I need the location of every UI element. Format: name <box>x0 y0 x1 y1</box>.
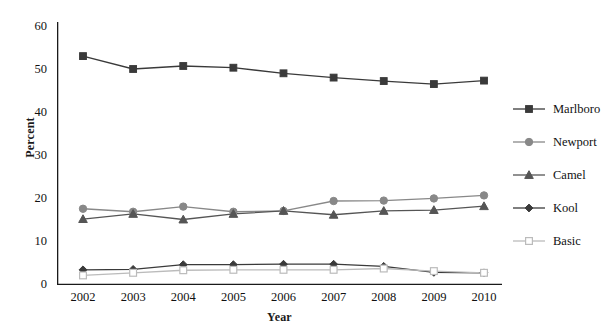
legend-label: Kool <box>546 201 578 215</box>
legend-item-marlboro[interactable]: Marlboro <box>512 92 606 125</box>
squarefilled-marker-icon <box>512 101 546 117</box>
trianglefilled-marker-icon <box>512 167 546 183</box>
y-tick-label: 10 <box>21 235 47 247</box>
y-tick-label: 60 <box>21 20 47 32</box>
y-tick-label: 30 <box>21 149 47 161</box>
x-tick-label: 2006 <box>262 291 306 304</box>
x-tick-label: 2008 <box>362 291 406 304</box>
legend-label: Marlboro <box>546 102 600 116</box>
legend-label: Basic <box>546 234 581 248</box>
legend-item-kool[interactable]: Kool <box>512 191 606 224</box>
diamondfilled-marker-icon <box>512 200 546 216</box>
x-tick-label: 2010 <box>462 291 506 304</box>
y-tick-label: 50 <box>21 63 47 75</box>
chart-figure: Rate Percent Year 0102030405060 20022003… <box>0 0 608 336</box>
legend-item-camel[interactable]: Camel <box>512 158 606 191</box>
x-tick-label: 2002 <box>61 291 105 304</box>
plot-area <box>57 22 502 285</box>
y-tick-label: 40 <box>21 106 47 118</box>
x-tick-label: 2009 <box>412 291 456 304</box>
line-chart-svg <box>57 22 502 285</box>
x-tick-label: 2004 <box>161 291 205 304</box>
y-tick-label: 20 <box>21 192 47 204</box>
legend-label: Newport <box>546 135 597 149</box>
y-tick-label: 0 <box>21 278 47 290</box>
legend-item-newport[interactable]: Newport <box>512 125 606 158</box>
x-tick-label: 2005 <box>211 291 255 304</box>
circlefilled-marker-icon <box>512 134 546 150</box>
squareopen-marker-icon <box>512 233 546 249</box>
x-tick-label: 2003 <box>111 291 155 304</box>
legend-label: Camel <box>546 168 586 182</box>
x-tick-label: 2007 <box>312 291 356 304</box>
legend-item-basic[interactable]: Basic <box>512 224 606 257</box>
x-axis-label: Year <box>57 310 502 325</box>
chart-legend: MarlboroNewportCamelKoolBasic <box>512 92 606 257</box>
